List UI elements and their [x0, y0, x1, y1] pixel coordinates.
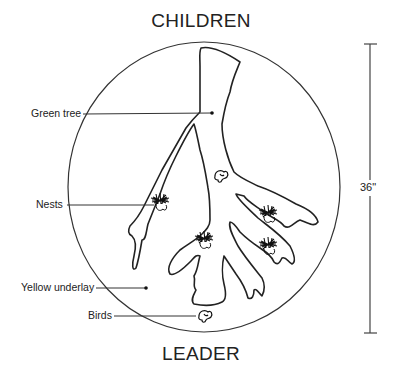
- tree-trunk: [129, 48, 318, 306]
- dimension-label: 36": [360, 181, 376, 193]
- nest-4: [259, 237, 277, 254]
- nests: [151, 193, 277, 254]
- bird-2: [199, 311, 212, 323]
- callout-birds: Birds: [88, 309, 112, 321]
- diagram-canvas: CHILDREN LEADER: [0, 0, 402, 377]
- nest-2: [195, 231, 213, 248]
- callout-nests: Nests: [36, 198, 63, 210]
- diagram-drawing: [0, 0, 402, 377]
- nest-3: [259, 205, 277, 222]
- birds: [199, 171, 228, 323]
- bird-1: [215, 171, 228, 183]
- callout-yellow-underlay: Yellow underlay: [21, 281, 94, 293]
- tree-drawing: [129, 48, 318, 306]
- callout-green-tree: Green tree: [31, 107, 81, 119]
- callout-line-green-tree: [83, 113, 212, 114]
